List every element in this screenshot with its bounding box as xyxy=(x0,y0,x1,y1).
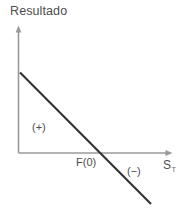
y-axis-label: Resultado xyxy=(10,5,67,18)
x-axis-label: ST xyxy=(163,159,176,171)
negative-region-label: (−) xyxy=(127,166,141,177)
result-vs-st-diagram: Resultado (+) (−) F(0) ST xyxy=(0,0,187,217)
x-axis-arrowhead-icon xyxy=(166,150,173,156)
x-axis-label-subscript: T xyxy=(172,165,177,174)
y-axis-arrowhead-icon xyxy=(16,26,22,33)
plot-canvas xyxy=(0,0,187,217)
result-line xyxy=(20,73,151,205)
y-axis xyxy=(16,26,22,154)
x-axis-label-symbol: S xyxy=(163,158,171,172)
root-point-label: F(0) xyxy=(76,157,96,168)
positive-region-label: (+) xyxy=(32,122,46,133)
